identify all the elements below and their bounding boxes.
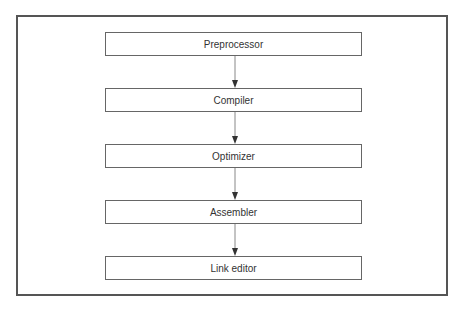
stage-label: Compiler xyxy=(213,95,253,106)
arrow-compiler-to-optimizer xyxy=(232,112,238,144)
stage-label: Assembler xyxy=(210,207,257,218)
stage-assembler: Assembler xyxy=(105,200,362,224)
stage-link-editor: Link editor xyxy=(105,256,362,280)
arrow-optimizer-to-assembler xyxy=(232,168,238,200)
arrow-assembler-to-link-editor xyxy=(232,224,238,256)
stage-label: Link editor xyxy=(210,263,256,274)
stage-label: Preprocessor xyxy=(204,39,263,50)
arrow-preprocessor-to-compiler xyxy=(232,56,238,88)
stage-optimizer: Optimizer xyxy=(105,144,362,168)
stage-compiler: Compiler xyxy=(105,88,362,112)
stage-preprocessor: Preprocessor xyxy=(105,32,362,56)
stage-label: Optimizer xyxy=(212,151,255,162)
